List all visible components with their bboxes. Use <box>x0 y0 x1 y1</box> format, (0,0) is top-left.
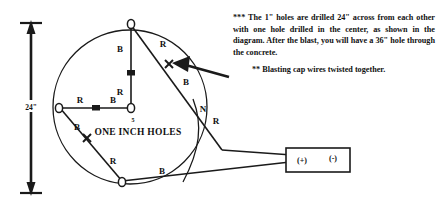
polarity-negative-label: (-) <box>329 154 337 163</box>
dimension-arrow-24in: 24" <box>20 20 42 196</box>
leg-label-center-b: B <box>110 95 116 105</box>
dimension-label-24in: 24" <box>25 103 37 112</box>
note-blasting-cap-wires: ** Blasting cap wires twisted together. <box>252 64 437 76</box>
leg-label-bottom-r: R <box>110 156 117 166</box>
hole-bottom <box>118 177 125 186</box>
note-hole-spacing: *** The 1" holes are drilled 24" across … <box>233 12 435 59</box>
leg-label-left-b: B <box>74 122 80 132</box>
leg-label-center-r: R <box>117 87 124 97</box>
connector-box: (+) (-) <box>286 148 350 172</box>
leg-label-bottom-b: B <box>159 166 165 176</box>
leg-label-top-b: B <box>117 44 123 54</box>
polarity-positive-label: (+) <box>297 156 307 165</box>
leg-label-node-n: N <box>200 104 207 114</box>
leg-label-left-r: R <box>77 95 84 105</box>
hole-caption-label: ONE INCH HOLES <box>94 127 181 137</box>
leg-label-diag-b: B <box>183 77 189 87</box>
diagram-page: 24" <box>0 0 442 214</box>
hole-count-label: 5 <box>132 117 135 123</box>
leg-label-diag-r: R <box>160 39 167 49</box>
hole-center <box>127 103 134 112</box>
callout-arrow-twist <box>172 56 229 77</box>
hole-left <box>55 103 62 112</box>
twist-marker-upper <box>165 60 173 68</box>
hole-top <box>127 19 134 28</box>
leg-label-lead-r: R <box>213 116 220 126</box>
